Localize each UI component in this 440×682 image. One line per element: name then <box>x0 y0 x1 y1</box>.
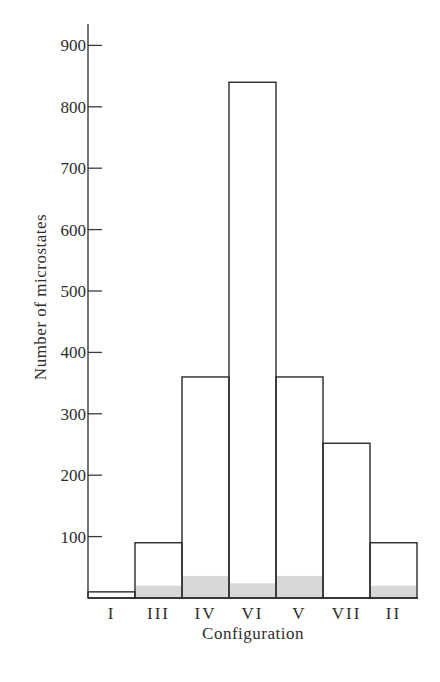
bar-i <box>88 592 135 598</box>
y-tick-label: 200 <box>61 466 87 485</box>
shaded-region <box>277 576 322 598</box>
y-axis <box>88 24 418 598</box>
x-axis-title: Configuration <box>202 624 304 643</box>
histogram-chart: 100200300400500600700800900 IIIIIVVIVVII… <box>0 0 440 682</box>
bar-iv <box>182 377 229 598</box>
shaded-region <box>136 586 181 598</box>
y-tick-label: 100 <box>61 528 87 547</box>
y-axis-title: Number of microstates <box>31 214 50 380</box>
shaded-region <box>230 583 275 598</box>
category-label: II <box>386 604 401 623</box>
y-tick-label: 700 <box>61 159 87 178</box>
bar-vii <box>323 443 370 598</box>
y-tick-label: 300 <box>61 405 87 424</box>
bar-vi <box>229 82 276 598</box>
category-label: VI <box>242 604 264 623</box>
y-ticks: 100200300400500600700800900 <box>61 36 103 546</box>
shaded-region <box>371 586 416 598</box>
y-tick-label: 400 <box>61 343 87 362</box>
category-label: V <box>292 604 306 623</box>
bars <box>88 82 417 598</box>
x-category-labels: IIIIIVVIVVIIII <box>108 604 402 623</box>
y-tick-label: 600 <box>61 221 87 240</box>
category-label: IV <box>195 604 217 623</box>
bar-v <box>276 377 323 598</box>
y-tick-label: 800 <box>61 98 87 117</box>
shaded-region <box>183 576 228 598</box>
category-label: VII <box>332 604 362 623</box>
y-tick-label: 500 <box>61 282 87 301</box>
category-label: I <box>108 604 116 623</box>
category-label: III <box>147 604 170 623</box>
y-tick-label: 900 <box>61 36 87 55</box>
